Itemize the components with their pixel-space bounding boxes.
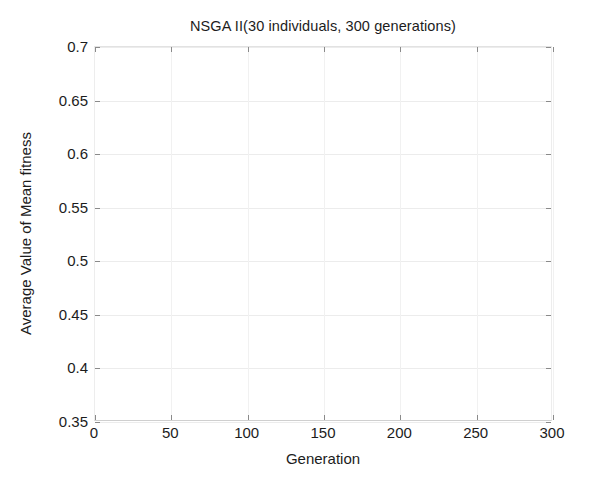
x-axis-tick-mark [553,415,554,420]
x-axis-tick-mark-top [171,47,172,52]
gridline-vertical [324,47,325,420]
y-axis-title: Average Value of Mean fitness [17,46,39,421]
gridline-horizontal [95,208,551,209]
y-axis-tick-mark-right [546,208,551,209]
chart-title: NSGA II(30 individuals, 300 generations) [94,18,552,34]
y-axis-tick-mark [95,422,100,423]
x-axis-tick-mark [95,415,96,420]
y-axis-tick-mark-right [546,101,551,102]
gridline-horizontal [95,422,551,423]
x-axis-tick-mark [324,415,325,420]
gridline-horizontal [95,315,551,316]
x-axis-tick-mark [477,415,478,420]
y-axis-tick-mark-right [546,154,551,155]
gridline-horizontal [95,368,551,369]
x-axis-tick-label: 150 [283,424,363,441]
x-axis-tick-label: 300 [512,424,591,441]
y-axis-tick-mark-right [546,368,551,369]
gridline-horizontal [95,101,551,102]
y-axis-tick-mark [95,154,100,155]
x-axis-tick-label: 200 [359,424,439,441]
gridline-vertical [171,47,172,420]
y-axis-tick-mark [95,368,100,369]
gridline-vertical [553,47,554,420]
gridline-horizontal [95,261,551,262]
x-axis-tick-labels: 050100150200250300 [94,424,552,446]
x-axis-tick-mark-top [477,47,478,52]
y-axis-tick-mark [95,208,100,209]
y-axis-tick-mark [95,315,100,316]
x-axis-tick-mark-top [400,47,401,52]
y-axis-tick-mark [95,101,100,102]
gridline-vertical [400,47,401,420]
x-axis-tick-mark-top [248,47,249,52]
plot-area [94,46,552,421]
gridline-horizontal [95,47,551,48]
x-axis-tick-label: 50 [130,424,210,441]
gridline-horizontal [95,154,551,155]
x-axis-tick-mark-top [324,47,325,52]
x-axis-tick-mark-top [553,47,554,52]
x-axis-tick-mark [248,415,249,420]
x-axis-tick-label: 100 [207,424,287,441]
y-axis-tick-mark [95,261,100,262]
x-axis-tick-label: 250 [436,424,516,441]
x-axis-tick-mark [400,415,401,420]
x-axis-tick-mark [171,415,172,420]
y-axis-tick-mark-right [546,47,551,48]
chart-figure: NSGA II(30 individuals, 300 generations)… [0,0,591,488]
gridline-vertical [477,47,478,420]
gridline-vertical [248,47,249,420]
y-axis-tick-mark-right [546,422,551,423]
y-axis-tick-mark-right [546,261,551,262]
x-axis-tick-mark-top [95,47,96,52]
x-axis-tick-label: 0 [54,424,134,441]
y-axis-tick-mark-right [546,315,551,316]
x-axis-title: Generation [94,450,552,467]
